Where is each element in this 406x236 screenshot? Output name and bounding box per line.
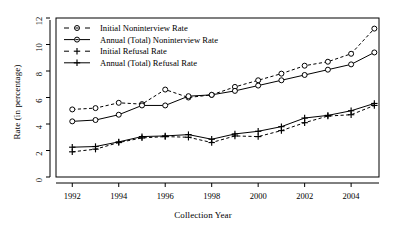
y-tick-label: 10 bbox=[34, 43, 44, 52]
legend-label: Initial Noninterview Rate bbox=[100, 23, 188, 33]
data-point-circle bbox=[163, 87, 168, 92]
x-tick-label: 2000 bbox=[250, 191, 267, 201]
data-point-circle bbox=[302, 63, 307, 68]
y-axis-title: Rate (in percentage) bbox=[12, 42, 22, 162]
legend-label: Annual (Total) Noninterview Rate bbox=[100, 35, 218, 45]
series-line bbox=[72, 103, 374, 147]
data-point-circle bbox=[325, 67, 330, 72]
data-point-circle bbox=[279, 71, 284, 76]
y-tick-label: 6 bbox=[34, 98, 44, 102]
data-point-circle bbox=[325, 59, 330, 64]
data-point-circle bbox=[349, 62, 354, 67]
data-point-circle bbox=[139, 103, 144, 108]
data-point-circle bbox=[70, 119, 75, 124]
x-tick-label: 1992 bbox=[64, 191, 81, 201]
y-tick-label: 2 bbox=[34, 151, 44, 155]
x-tick-label: 1998 bbox=[203, 191, 220, 201]
data-point-circle bbox=[302, 72, 307, 77]
data-point-circle bbox=[349, 51, 354, 56]
legend-label: Initial Refusal Rate bbox=[100, 46, 167, 56]
x-tick-label: 1996 bbox=[157, 191, 174, 201]
data-point-circle bbox=[256, 78, 261, 83]
x-axis-title: Collection Year bbox=[0, 210, 406, 220]
data-point-circle bbox=[116, 100, 121, 105]
data-point-circle bbox=[93, 118, 98, 123]
data-point-circle bbox=[93, 106, 98, 111]
legend-label: Annual (Total) Refusal Rate bbox=[100, 58, 197, 68]
data-point-circle bbox=[116, 112, 121, 117]
data-point-circle bbox=[232, 88, 237, 93]
data-point-circle bbox=[70, 107, 75, 112]
y-tick-label: 0 bbox=[34, 178, 44, 182]
data-point-circle bbox=[186, 94, 191, 99]
data-point-circle bbox=[372, 50, 377, 55]
chart-figure: 0246810121992199419961998200020022004Ini… bbox=[0, 0, 406, 236]
y-tick-label: 12 bbox=[34, 17, 44, 26]
y-tick-label: 4 bbox=[34, 124, 44, 129]
data-point-circle bbox=[279, 78, 284, 83]
y-tick-label: 8 bbox=[34, 72, 44, 76]
plot-canvas: 0246810121992199419961998200020022004Ini… bbox=[0, 0, 406, 236]
data-point-circle bbox=[256, 83, 261, 88]
x-tick-label: 2004 bbox=[343, 191, 361, 201]
data-point-circle bbox=[209, 92, 214, 97]
x-tick-label: 1994 bbox=[110, 191, 128, 201]
x-tick-label: 2002 bbox=[296, 191, 313, 201]
data-point-circle bbox=[372, 26, 377, 31]
data-point-circle bbox=[163, 103, 168, 108]
